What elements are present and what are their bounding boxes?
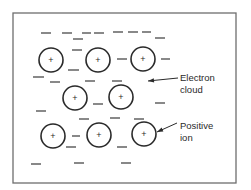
plus-sign-icon: + [95, 55, 100, 65]
diagram-frame [13, 13, 236, 183]
electron-cloud-callout: Electron cloud [148, 72, 215, 95]
plus-sign-icon: + [50, 131, 55, 141]
plus-sign-icon: + [140, 54, 145, 64]
electron-cloud-label-line2: cloud [180, 84, 203, 95]
positive-ion-lattice: ++++++++ [39, 47, 156, 148]
positive-ion: + [87, 123, 111, 147]
metallic-bond-diagram: ++++++++ Electron cloud Positive ion [0, 0, 251, 190]
arrowhead-icon [157, 128, 163, 132]
positive-ion: + [132, 122, 156, 146]
plus-sign-icon: + [96, 130, 101, 140]
positive-ion: + [39, 48, 63, 72]
positive-ion: + [131, 47, 155, 71]
plus-sign-icon: + [48, 55, 53, 65]
positive-ion-callout: Positive ion [157, 120, 213, 143]
plus-sign-icon: + [72, 93, 77, 103]
positive-ion: + [109, 85, 133, 109]
positive-ion: + [63, 86, 87, 110]
positive-ion-label-line1: Positive [180, 120, 213, 131]
positive-ion: + [41, 124, 65, 148]
arrowhead-icon [148, 78, 154, 82]
positive-ion-label-line2: ion [180, 132, 193, 143]
plus-sign-icon: + [118, 92, 123, 102]
plus-sign-icon: + [141, 129, 146, 139]
positive-ion: + [86, 48, 110, 72]
electron-cloud-label-line1: Electron [180, 72, 215, 83]
